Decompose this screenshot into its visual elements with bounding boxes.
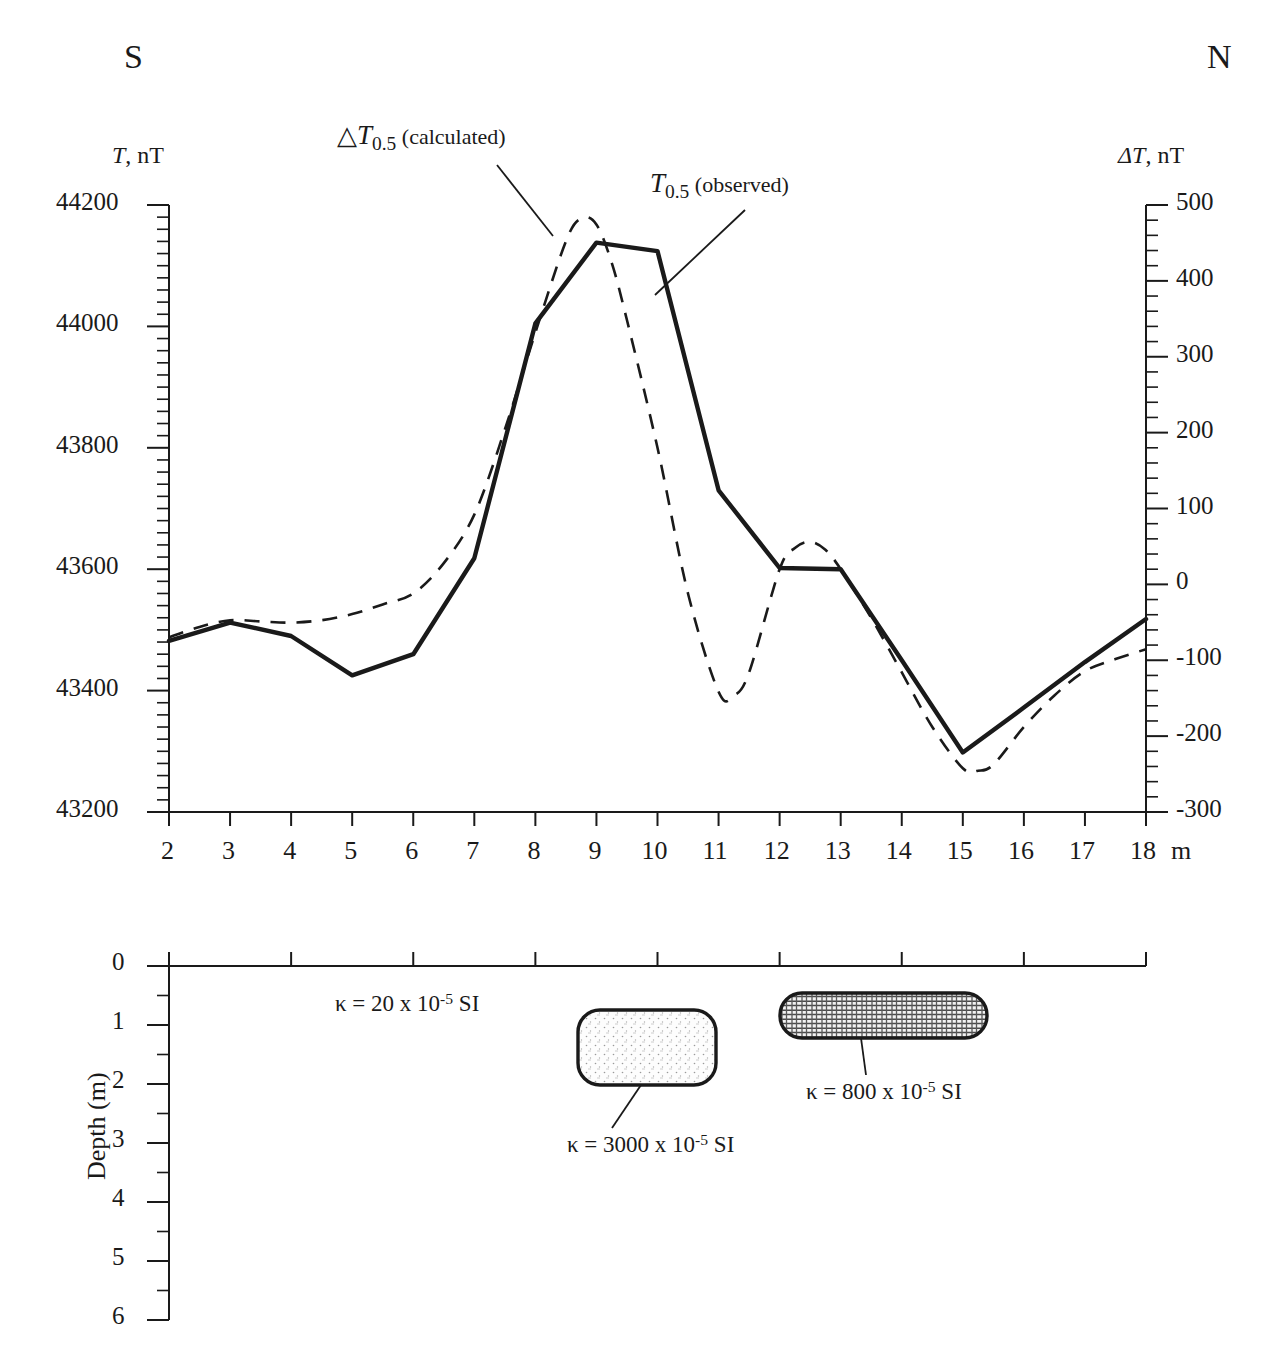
- depth-tick-label: 3: [112, 1125, 125, 1153]
- right-tick-label: -100: [1176, 643, 1222, 671]
- x-tick-label: 4: [283, 836, 296, 866]
- left-tick-label: 43200: [56, 795, 119, 823]
- depth-tick-label: 0: [112, 948, 125, 976]
- x-tick-label: 18: [1130, 836, 1156, 866]
- depth-panel: [147, 952, 1146, 1320]
- x-tick-label: 12: [764, 836, 790, 866]
- depth-tick-label: 1: [112, 1007, 125, 1035]
- right-tick-label: 200: [1176, 416, 1214, 444]
- leader-lines: [497, 165, 745, 295]
- observed-curve: [169, 243, 1146, 753]
- right-tick-label: -200: [1176, 719, 1222, 747]
- depth-tick-label: 4: [112, 1184, 125, 1212]
- x-tick-label: 2: [161, 836, 174, 866]
- left-tick-label: 44200: [56, 188, 119, 216]
- x-tick-label: 3: [222, 836, 235, 866]
- x-tick-label: 15: [947, 836, 973, 866]
- right-tick-label: 0: [1176, 567, 1189, 595]
- leader-line-lower-body: [612, 1085, 641, 1128]
- x-tick-label: 10: [642, 836, 668, 866]
- left-tick-label: 43400: [56, 674, 119, 702]
- x-tick-label: 17: [1069, 836, 1095, 866]
- x-axis: [169, 812, 1146, 826]
- depth-tick-label: 2: [112, 1066, 125, 1094]
- x-tick-label: 9: [588, 836, 601, 866]
- x-axis-unit-label: m: [1171, 836, 1191, 866]
- x-tick-label: 14: [886, 836, 912, 866]
- depth-tick-label: 6: [112, 1302, 125, 1330]
- data-curves: [169, 217, 1146, 772]
- body-lower: [578, 1010, 716, 1085]
- x-tick-label: 13: [825, 836, 851, 866]
- left-tick-label: 43800: [56, 431, 119, 459]
- leader-line-calculated: [497, 165, 553, 236]
- magnetic-profile-figure: S N T, nT ΔT, nT △T0.5 (calculated) T0.5…: [0, 0, 1270, 1367]
- x-tick-label: 16: [1008, 836, 1034, 866]
- right-tick-label: 100: [1176, 492, 1214, 520]
- left-tick-label: 43600: [56, 552, 119, 580]
- right-axis: [1146, 205, 1168, 812]
- leader-line-observed: [655, 210, 745, 295]
- depth-tick-label: 5: [112, 1243, 125, 1271]
- x-tick-label: 11: [703, 836, 728, 866]
- right-tick-label: 300: [1176, 340, 1214, 368]
- x-tick-label: 7: [466, 836, 479, 866]
- figure-canvas: [0, 0, 1270, 1367]
- right-tick-label: -300: [1176, 795, 1222, 823]
- right-tick-label: 500: [1176, 188, 1214, 216]
- left-axis: [147, 205, 169, 812]
- x-tick-label: 8: [527, 836, 540, 866]
- left-tick-label: 44000: [56, 309, 119, 337]
- x-tick-label: 6: [405, 836, 418, 866]
- x-tick-label: 5: [344, 836, 357, 866]
- body-upper: [780, 993, 987, 1038]
- right-tick-label: 400: [1176, 264, 1214, 292]
- leader-line-upper-body: [861, 1038, 866, 1075]
- calculated-curve: [169, 217, 1146, 772]
